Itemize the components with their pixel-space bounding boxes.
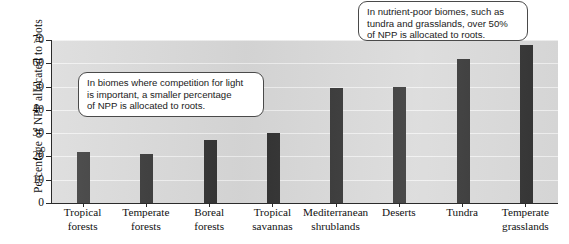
annotation-line: is important, a smaller percentage [87, 89, 256, 101]
y-tick-label: 30 [18, 126, 44, 138]
bar [204, 140, 217, 203]
plot-texture [52, 40, 558, 203]
bar [520, 45, 533, 203]
annotation-line: In biomes where competition for light [87, 77, 256, 89]
gridline [52, 63, 558, 64]
gridline [52, 180, 558, 181]
gridline [52, 156, 558, 157]
annotation-line: of NPP is allocated to roots. [367, 29, 520, 41]
bar [140, 154, 153, 203]
bar [457, 59, 470, 203]
bar [77, 152, 90, 203]
y-tick-label: 40 [18, 103, 44, 115]
chart-figure: Percentage of NPP allocated to roots 010… [0, 0, 569, 244]
y-tick-label: 50 [18, 80, 44, 92]
bar [267, 133, 280, 203]
y-tick-label: 20 [18, 149, 44, 161]
bar [393, 87, 406, 203]
x-axis-label: Temperategrasslands [483, 206, 567, 233]
annotation-line: In nutrient-poor biomes, such as [367, 6, 520, 18]
y-tick-label: 70 [18, 33, 44, 45]
annotation-callout-right: In nutrient-poor biomes, such astundra a… [358, 1, 528, 41]
bar [330, 88, 343, 203]
annotation-callout-left: In biomes where competition for lightis … [78, 72, 264, 117]
gridline [52, 133, 558, 134]
y-tick-label: 60 [18, 56, 44, 68]
annotation-line: of NPP is allocated to roots. [87, 100, 256, 112]
annotation-line: tundra and grasslands, over 50% [367, 18, 520, 30]
plot-area [51, 40, 558, 204]
y-tick-label: 10 [18, 173, 44, 185]
